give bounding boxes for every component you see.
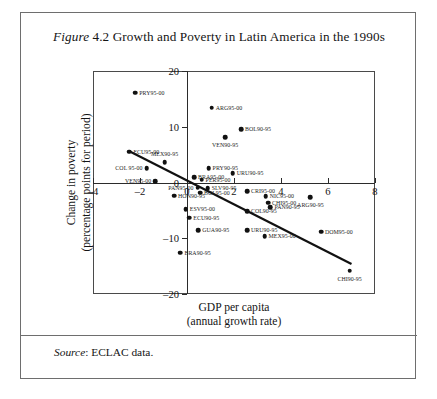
x-tick bbox=[234, 178, 235, 183]
y-tick-label: –20 bbox=[163, 289, 179, 300]
data-point bbox=[153, 179, 158, 184]
data-point-label: BOL90-95 bbox=[245, 126, 271, 132]
data-point-label: HON90-95 bbox=[178, 193, 205, 199]
data-point bbox=[199, 177, 204, 182]
data-point-label: ECU90-95 bbox=[193, 215, 219, 221]
y-tick-label: 20 bbox=[168, 66, 179, 77]
data-point bbox=[245, 228, 250, 233]
data-point bbox=[209, 105, 214, 110]
x-tick-label: 6 bbox=[325, 186, 330, 197]
data-point bbox=[239, 127, 244, 132]
figure-label: Figure bbox=[53, 29, 89, 44]
data-point bbox=[262, 234, 267, 239]
data-point bbox=[245, 209, 250, 214]
data-point bbox=[319, 229, 324, 234]
x-tick bbox=[281, 178, 282, 183]
data-point-label: ESV95-00 bbox=[190, 206, 215, 212]
data-point-label: GUA90-95 bbox=[202, 227, 229, 233]
figure-title: Figure 4.2 Growth and Poverty in Latin A… bbox=[21, 29, 417, 45]
x-tick bbox=[328, 178, 329, 183]
data-point bbox=[195, 185, 200, 190]
data-point-label: COL 95-00 bbox=[115, 165, 142, 171]
scatter-plot: –4–202468 –20–1001020 PRY95-00ARG95-00BO… bbox=[51, 61, 391, 323]
y-tick bbox=[182, 238, 187, 239]
x-tick-label: –2 bbox=[135, 186, 146, 197]
data-point bbox=[144, 166, 149, 171]
x-tick-label: 8 bbox=[372, 186, 377, 197]
data-point-label: NIC95-00 bbox=[270, 193, 294, 199]
source-text: : ECLAC data. bbox=[85, 346, 153, 358]
x-axis-title-line1: GDP per capita bbox=[93, 301, 375, 315]
data-point-label: MEX95-00 bbox=[269, 233, 296, 239]
y-tick bbox=[182, 71, 187, 72]
x-tick bbox=[375, 178, 376, 183]
data-point bbox=[308, 195, 313, 200]
data-point-label: PRY95-00 bbox=[139, 90, 164, 96]
data-point bbox=[184, 207, 189, 212]
data-point bbox=[172, 194, 177, 199]
data-point-label: COL90-95 bbox=[251, 208, 277, 214]
figure-page: Figure 4.2 Growth and Poverty in Latin A… bbox=[0, 0, 437, 399]
figure-frame: Figure 4.2 Growth and Poverty in Latin A… bbox=[20, 12, 416, 379]
data-point bbox=[127, 150, 132, 155]
data-point bbox=[178, 250, 183, 255]
data-point-label: BOL95-00 bbox=[204, 190, 230, 196]
x-axis-title-line2: (annual growth rate) bbox=[93, 315, 375, 329]
data-point-label: PAN90-95 bbox=[274, 204, 299, 210]
data-point-label: PAN95-00 bbox=[168, 185, 193, 191]
data-point-label: MEX90-95 bbox=[151, 151, 178, 157]
figure-title-text: Growth and Poverty in Latin America in t… bbox=[113, 29, 385, 44]
data-point bbox=[206, 166, 211, 171]
figure-number: 4.2 bbox=[93, 29, 110, 44]
divider-rule bbox=[21, 335, 417, 336]
y-tick bbox=[182, 294, 187, 295]
data-point bbox=[187, 215, 192, 220]
y-tick-label: 10 bbox=[168, 121, 179, 132]
y-axis-title-line1: Change in poverty bbox=[65, 71, 80, 294]
data-point bbox=[162, 160, 167, 165]
data-point-label: URU90-95 bbox=[237, 170, 264, 176]
data-point bbox=[231, 171, 236, 176]
data-point-label: PER95-00 bbox=[206, 177, 231, 183]
data-point-label: VEN90-95 bbox=[212, 142, 238, 148]
data-point-label: CHI90-95 bbox=[337, 276, 361, 282]
source-note: Source: ECLAC data. bbox=[54, 346, 153, 358]
data-point bbox=[196, 228, 201, 233]
y-tick bbox=[182, 127, 187, 128]
data-point bbox=[245, 189, 250, 194]
y-axis-title: Change in poverty (percentage points for… bbox=[65, 71, 94, 294]
source-label: Source bbox=[54, 346, 85, 358]
x-axis-title: GDP per capita (annual growth rate) bbox=[93, 301, 375, 329]
data-point bbox=[192, 175, 197, 180]
data-point-label: VEN95-00 bbox=[125, 178, 151, 184]
data-point-label: DOM95-00 bbox=[325, 229, 353, 235]
y-axis-title-line2: (percentage points for period) bbox=[80, 71, 95, 294]
data-point-label: BRA90-95 bbox=[184, 250, 210, 256]
data-point bbox=[263, 194, 268, 199]
y-tick bbox=[182, 183, 187, 184]
data-point bbox=[223, 135, 228, 140]
y-tick-label: –10 bbox=[163, 233, 179, 244]
data-point bbox=[133, 90, 138, 95]
data-point-label: ARG90-95 bbox=[297, 202, 324, 208]
data-point-label: ARG95-00 bbox=[216, 105, 243, 111]
data-point bbox=[347, 268, 352, 273]
